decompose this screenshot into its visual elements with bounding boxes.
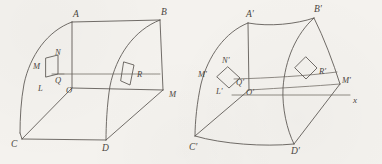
label-M-prime-vertex: M′	[342, 76, 351, 85]
label-B: B	[161, 8, 167, 18]
label-O-prime: O′	[246, 88, 254, 97]
label-B-prime: B′	[314, 5, 322, 15]
label-R: R	[137, 70, 142, 79]
label-R-prime: R′	[319, 67, 326, 76]
label-M-prime-element: M′	[198, 70, 207, 79]
figure-canvas: A B N M Q L O R M C D A′ B′ N′ M′ Q′ L′ …	[0, 0, 382, 164]
left-edge-AB	[72, 20, 160, 22]
left-curve-AC	[20, 22, 72, 133]
label-N-prime: N′	[222, 56, 230, 65]
right-edge-OM	[249, 84, 340, 90]
right-curve-AB	[248, 18, 314, 25]
right-curve-BD	[283, 18, 314, 144]
right-edge-OC	[195, 90, 249, 136]
label-x-axis: x	[353, 96, 357, 105]
right-figure-group	[195, 18, 350, 145]
label-C-prime: C′	[189, 143, 197, 153]
left-edge-CD	[22, 139, 106, 140]
label-L: L	[38, 84, 43, 93]
label-C: C	[11, 140, 17, 150]
label-D-prime: D′	[291, 147, 300, 157]
left-edge-OM	[72, 88, 163, 90]
left-edge-MD	[106, 90, 163, 140]
right-curve-CD	[195, 136, 294, 145]
left-edge-to-C	[20, 133, 22, 139]
label-L-prime: L′	[216, 87, 223, 96]
right-edge-AO	[248, 23, 249, 90]
left-edge-OC	[22, 88, 72, 139]
left-plane-element-R	[121, 62, 134, 85]
label-Q: Q	[55, 76, 61, 85]
label-M-vertex: M	[169, 90, 176, 99]
label-Q-prime: Q′	[236, 78, 244, 87]
label-N: N	[55, 48, 61, 57]
label-A-prime: A′	[246, 10, 254, 20]
label-O: O	[66, 86, 72, 95]
right-edge-MD	[294, 84, 340, 144]
left-curve-BD	[106, 20, 160, 140]
label-A: A	[73, 10, 79, 20]
left-figure-group	[20, 20, 163, 140]
left-edge-BM	[160, 20, 163, 90]
label-M-element: M	[33, 62, 40, 71]
label-D: D	[102, 144, 109, 154]
